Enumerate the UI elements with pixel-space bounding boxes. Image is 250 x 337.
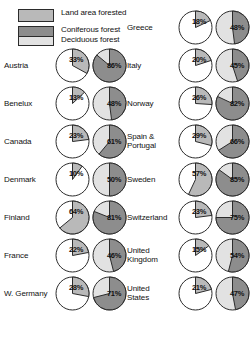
country-label: Canada [4, 137, 55, 146]
pie-forest-composition: 50% [92, 162, 127, 197]
country-label: UnitedKingdom [127, 246, 178, 264]
country-label: Benelux [4, 99, 55, 108]
pie-pair: 28% 71% [55, 276, 127, 311]
pie-pair: 26% 82% [178, 86, 250, 121]
country-label: Austria [4, 61, 55, 70]
pie-value-land-area-forested: 33% [69, 55, 83, 64]
country-row: Switzerland 23% 75% [127, 198, 248, 236]
pie-value-land-area-forested: 64% [69, 207, 83, 216]
country-row: Italy 20% 45% [127, 46, 248, 84]
pie-pair: 29% 66% [178, 124, 250, 159]
pie-value-land-area-forested: 15% [192, 245, 206, 254]
country-row: Austria 33% 86% [4, 46, 125, 84]
pie-forest-composition: 71% [92, 276, 127, 311]
country-label: Greece [127, 23, 178, 32]
pie-pair: 18% 48% [178, 10, 250, 45]
pie-pair: 23% 61% [55, 124, 127, 159]
country-row: Sweden 57% 85% [127, 160, 248, 198]
pie-value-coniferous-forest: 81% [107, 213, 121, 222]
pie-forest-composition: 81% [92, 200, 127, 235]
country-label: Denmark [4, 175, 55, 184]
legend: Land area forested Coniferous forest Dec… [18, 8, 130, 49]
pie-forest-composition: 48% [215, 10, 250, 45]
pie-land-area-forested: 23% [178, 200, 213, 235]
pie-value-land-area-forested: 10% [69, 169, 83, 178]
pie-pair: 21% 47% [178, 276, 250, 311]
pie-pair: 20% 45% [178, 48, 250, 83]
pie-value-coniferous-forest: 86% [107, 61, 121, 70]
country-label: Finland [4, 213, 55, 222]
pie-value-land-area-forested: 22% [69, 245, 83, 254]
pie-value-coniferous-forest: 71% [107, 289, 121, 298]
pie-value-coniferous-forest: 48% [230, 23, 244, 32]
legend-swatch-forest-types-icon [18, 26, 54, 46]
pie-land-area-forested: 23% [55, 124, 90, 159]
pie-land-area-forested: 21% [178, 276, 213, 311]
pie-land-area-forested: 10% [55, 162, 90, 197]
pie-land-area-forested: 29% [178, 124, 213, 159]
pie-land-area-forested: 28% [55, 276, 90, 311]
pie-value-coniferous-forest: 48% [107, 99, 121, 108]
pie-pair: 33% 86% [55, 48, 127, 83]
country-label: W. Germany [4, 289, 55, 298]
country-row: Spain &Portugal 29% 66% [127, 122, 248, 160]
country-row: Canada 23% 61% [4, 122, 125, 160]
pie-pair: 57% 85% [178, 162, 250, 197]
pie-forest-composition: 45% [215, 48, 250, 83]
pie-land-area-forested: 20% [178, 48, 213, 83]
pie-land-area-forested: 26% [178, 86, 213, 121]
pie-value-land-area-forested: 18% [192, 17, 206, 26]
pie-land-area-forested: 15% [178, 238, 213, 273]
pie-land-area-forested: 64% [55, 200, 90, 235]
pie-pair: 10% 50% [55, 162, 127, 197]
pie-value-coniferous-forest: 50% [107, 175, 121, 184]
pie-forest-composition: 54% [215, 238, 250, 273]
pie-forest-composition: 86% [92, 48, 127, 83]
pie-value-land-area-forested: 29% [192, 131, 206, 140]
pie-pair: 15% 54% [178, 238, 250, 273]
pie-value-coniferous-forest: 45% [230, 61, 244, 70]
legend-swatch-deciduous-icon [19, 37, 53, 46]
pie-pair: 22% 46% [55, 238, 127, 273]
pie-value-coniferous-forest: 66% [230, 137, 244, 146]
country-row: Norway 26% 82% [127, 84, 248, 122]
pie-value-land-area-forested: 57% [192, 169, 206, 178]
legend-swatch-land-icon [18, 9, 54, 22]
pie-forest-composition: 85% [215, 162, 250, 197]
country-label: UnitedStates [127, 284, 178, 302]
pie-value-coniferous-forest: 61% [107, 137, 121, 146]
country-row: W. Germany 28% 71% [4, 274, 125, 312]
legend-item-land-area-forested: Land area forested [18, 8, 130, 22]
pie-land-area-forested: 33% [55, 48, 90, 83]
country-label: France [4, 251, 55, 260]
country-row: Benelux 13% 48% [4, 84, 125, 122]
pie-land-area-forested: 13% [55, 86, 90, 121]
country-label: Italy [127, 61, 178, 70]
forest-statistics-figure: Land area forested Coniferous forest Dec… [0, 0, 250, 337]
pie-land-area-forested: 22% [55, 238, 90, 273]
pie-value-coniferous-forest: 75% [230, 213, 244, 222]
pie-value-coniferous-forest: 46% [107, 251, 121, 260]
pie-forest-composition: 82% [215, 86, 250, 121]
pie-value-land-area-forested: 23% [69, 131, 83, 140]
country-label: Sweden [127, 175, 178, 184]
country-row: Denmark 10% 50% [4, 160, 125, 198]
legend-label-deciduous: Deciduous forest [61, 35, 120, 45]
pie-forest-composition: 48% [92, 86, 127, 121]
legend-label-land: Land area forested [61, 8, 126, 18]
pie-pair: 13% 48% [55, 86, 127, 121]
pie-forest-composition: 61% [92, 124, 127, 159]
pie-value-land-area-forested: 13% [69, 93, 83, 102]
pie-land-area-forested: 18% [178, 10, 213, 45]
pie-forest-composition: 47% [215, 276, 250, 311]
country-column-right: Greece 18% 48% Italy 20% [127, 8, 248, 312]
country-row: UnitedKingdom 15% 54% [127, 236, 248, 274]
pie-value-coniferous-forest: 82% [230, 99, 244, 108]
pie-forest-composition: 66% [215, 124, 250, 159]
country-row: France 22% 46% [4, 236, 125, 274]
pie-value-land-area-forested: 21% [192, 283, 206, 292]
pie-value-coniferous-forest: 47% [230, 289, 244, 298]
legend-label-coniferous: Coniferous forest [61, 25, 120, 35]
country-label: Norway [127, 99, 178, 108]
pie-pair: 23% 75% [178, 200, 250, 235]
